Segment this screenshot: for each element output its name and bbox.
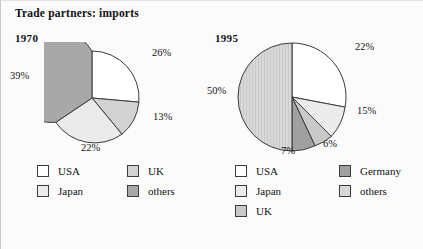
legend-label-usa: USA <box>58 165 80 177</box>
pie-1970-label-uk: 13% <box>153 111 172 122</box>
legend-label-others: others <box>360 185 387 197</box>
legend-swatch-usa-icon <box>37 165 49 177</box>
legend-item-uk[interactable]: UK <box>127 161 217 181</box>
chart-page: Trade partners: imports 1970 26% 13% 22%… <box>0 0 423 249</box>
legend-label-germany: Germany <box>360 165 401 177</box>
legend-label-uk: UK <box>148 165 164 177</box>
pie-1970-label-japan: 22% <box>81 142 100 153</box>
legend-label-uk: UK <box>256 205 272 217</box>
pie-1970-svg <box>44 42 144 146</box>
pie-slice-usa <box>292 43 346 107</box>
legend-item-others[interactable]: others <box>339 181 423 201</box>
chart-year-1995: 1995 <box>215 32 238 44</box>
pie-slice-usa <box>92 51 139 102</box>
legend-item-uk[interactable]: UK <box>235 201 339 221</box>
legend-swatch-uk-icon <box>235 205 247 217</box>
pie-1995-label-uk: 6% <box>323 138 337 149</box>
pie-1970-label-others: 39% <box>10 70 29 81</box>
page-title: Trade partners: imports <box>15 7 139 19</box>
legend-swatch-uk-icon <box>127 165 139 177</box>
pie-1995-label-others: 50% <box>207 85 226 96</box>
legend-swatch-usa-icon <box>235 165 247 177</box>
legend-1995: USA Germany Japan others UK <box>235 161 423 221</box>
chart-year-1970: 1970 <box>15 32 38 44</box>
legend-swatch-others-icon <box>339 185 351 197</box>
pie-chart-1970 <box>44 42 144 146</box>
legend-swatch-germany-icon <box>339 165 351 177</box>
pie-1995-label-germany: 7% <box>281 145 295 156</box>
legend-swatch-others-icon <box>127 185 139 197</box>
legend-label-usa: USA <box>256 165 278 177</box>
legend-swatch-japan-icon <box>37 185 49 197</box>
legend-label-japan: Japan <box>58 185 83 197</box>
legend-label-japan: Japan <box>256 185 281 197</box>
legend-item-usa[interactable]: USA <box>235 161 339 181</box>
legend-item-others[interactable]: others <box>127 181 217 201</box>
legend-item-japan[interactable]: Japan <box>235 181 339 201</box>
legend-swatch-japan-icon <box>235 185 247 197</box>
pie-1995-label-japan: 15% <box>357 105 376 116</box>
legend-item-japan[interactable]: Japan <box>37 181 127 201</box>
legend-item-usa[interactable]: USA <box>37 161 127 181</box>
pie-1995-label-usa: 22% <box>355 41 374 52</box>
legend-label-others: others <box>148 185 175 197</box>
pie-slice-others <box>238 43 292 151</box>
legend-item-germany[interactable]: Germany <box>339 161 423 181</box>
pie-1970-label-usa: 26% <box>152 47 171 58</box>
legend-1970: USA UK Japan others <box>37 161 217 201</box>
